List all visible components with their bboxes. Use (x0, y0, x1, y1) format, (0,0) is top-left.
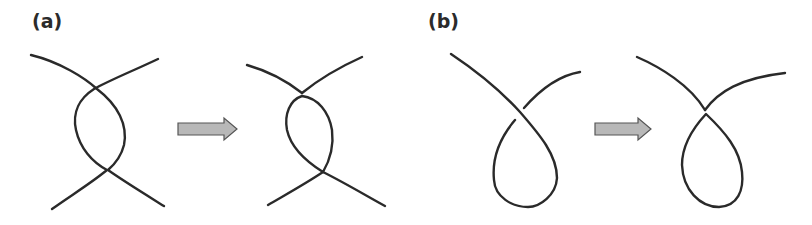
panel-a-after-figure (247, 57, 385, 206)
arrow-b-right-icon (595, 118, 651, 140)
arrow-a-right-icon (178, 118, 237, 140)
diagram-canvas (0, 0, 812, 225)
panel-a-before-figure (31, 55, 164, 209)
panel-b-before-figure (451, 54, 580, 207)
panel-b-after-figure (637, 57, 785, 207)
